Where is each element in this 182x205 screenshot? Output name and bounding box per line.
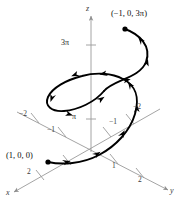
x-tick-label-neg2: −2 [133,103,141,111]
end-point-dot [122,26,127,31]
helix-curve [47,29,148,164]
z-tick-label-3pi: 3π [61,39,69,47]
y-tick-label-2: 2 [138,176,142,184]
direction-arrowheads [48,35,151,166]
helix-segment-middle [47,74,123,112]
x-tick-label-2: 2 [27,168,31,176]
z-tick-label-pi: π [72,113,76,121]
x-tick-label-neg1: −1 [109,118,117,126]
y-axis-label: y [170,187,174,195]
helix-3d-figure: x y z π 3π −2 −1 2 −2 −1 1 2 (1, 0, 0) (… [0,0,182,205]
x-axis-label: x [6,189,10,197]
axis-lines [14,16,168,192]
arrowhead-10 [96,95,106,104]
start-point-label: (1, 0, 0) [6,151,33,160]
y-tick-label-neg2: −2 [19,110,27,118]
start-point-dot [45,159,50,164]
y-tick-label-neg1: −1 [47,126,55,134]
y-tick-label-1: 1 [112,162,116,170]
end-point-label: (−1, 0, 3π) [111,9,147,18]
x-tick-pos-near [103,127,111,137]
y-axis-line [17,112,168,190]
z-axis-label: z [86,5,89,13]
